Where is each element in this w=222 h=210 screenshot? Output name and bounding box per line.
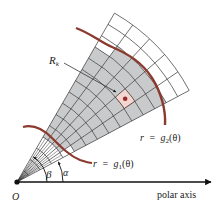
polar-region-diagram: Rk r = g2(θ) r = g1(θ) β α O polar axis: [0, 0, 222, 210]
sample-point-dot: [123, 96, 128, 101]
g2-label: r = g2(θ): [140, 132, 181, 145]
region-label: Rk: [48, 54, 60, 68]
g1-label: r = g1(θ): [93, 158, 134, 171]
origin-label: O: [12, 191, 19, 202]
origin-point: [14, 179, 19, 184]
polar-axis-label: polar axis: [157, 189, 196, 200]
grid-cells: [43, 46, 166, 153]
alpha-label: α: [63, 167, 69, 178]
beta-label: β: [45, 168, 52, 180]
